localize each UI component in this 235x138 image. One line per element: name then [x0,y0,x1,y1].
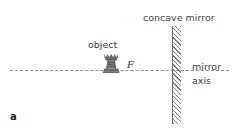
mirror-axis-label-line1: mirror [192,62,221,72]
concave-mirror-label: concave mirror [143,13,215,23]
concave-mirror-hatching [173,26,181,124]
focal-point-label: F [127,60,134,71]
object-rook-icon [100,52,123,74]
optics-diagram-figure: concave mirror object F mirror axis a [0,0,235,138]
object-label: object [88,40,117,50]
panel-label: a [10,112,17,123]
mirror-axis-label-line2: axis [192,76,211,86]
